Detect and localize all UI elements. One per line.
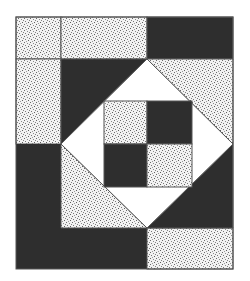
left-upper-rect — [16, 59, 61, 144]
quilt-block-diagram — [0, 0, 250, 281]
top-left-square — [16, 17, 61, 59]
top-middle-rect — [61, 17, 147, 59]
four-patch-top-right — [147, 101, 192, 144]
bottom-right-rect — [147, 228, 233, 269]
top-right-rect — [147, 17, 233, 59]
four-patch-bottom-left — [104, 144, 147, 187]
four-patch-bottom-right — [147, 144, 192, 187]
four-patch-top-left — [104, 101, 147, 144]
bottom-left-rect — [16, 228, 147, 269]
